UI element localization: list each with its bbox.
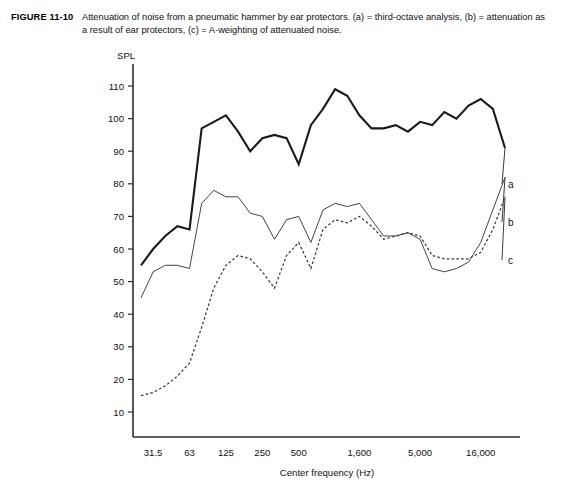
x-axis-title: Center frequency (Hz): [280, 467, 374, 478]
chart-container: SPL 102030405060708090100110 31.56312525…: [0, 42, 561, 495]
x-tick-label: 250: [254, 447, 270, 458]
y-tick-label: 60: [113, 244, 124, 255]
series-label-a: a: [508, 179, 514, 190]
y-tick-label: 50: [113, 276, 124, 287]
figure-caption-block: FIGURE 11-10 Attenuation of noise from a…: [0, 0, 561, 36]
figure-number: FIGURE 11-10: [0, 11, 82, 24]
series-b-line: [141, 177, 505, 298]
x-axis-ticks: 31.5631252505001,6005,00016,000: [144, 447, 496, 458]
x-tick-label: 125: [218, 447, 234, 458]
x-tick-label: 16,000: [466, 447, 495, 458]
series-label-c: c: [508, 255, 513, 266]
y-tick-label: 80: [113, 178, 124, 189]
series-c-line: [141, 197, 505, 396]
y-tick-label: 20: [113, 374, 124, 385]
y-axis-title: SPL: [117, 50, 136, 61]
series-a-line: [141, 89, 505, 265]
y-tick-label: 40: [113, 309, 124, 320]
y-axis-ticks: 102030405060708090100110: [108, 81, 133, 418]
x-tick-label: 5,000: [408, 447, 432, 458]
x-tick-label: 1,600: [347, 447, 371, 458]
series-labels: abc: [502, 148, 514, 266]
figure-caption-text: Attenuation of noise from a pneumatic ha…: [82, 11, 561, 36]
y-tick-label: 110: [109, 81, 124, 92]
y-tick-label: 10: [113, 407, 124, 418]
y-tick-label: 100: [108, 113, 124, 124]
series-label-b: b: [508, 217, 514, 228]
x-tick-label: 63: [184, 447, 195, 458]
x-tick-label: 31.5: [144, 447, 163, 458]
y-tick-label: 30: [113, 341, 124, 352]
y-tick-label: 90: [113, 146, 124, 157]
spl-line-chart: SPL 102030405060708090100110 31.56312525…: [0, 42, 561, 495]
x-tick-label: 500: [291, 447, 307, 458]
y-tick-label: 70: [113, 211, 124, 222]
